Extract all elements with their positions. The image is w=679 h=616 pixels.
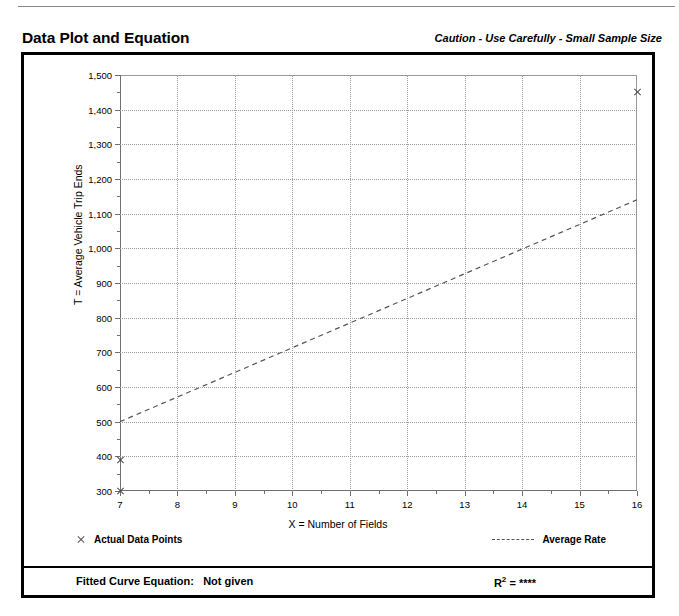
r-squared-equals: =: [509, 577, 515, 589]
x-axis-minor-tick: [149, 491, 150, 494]
x-axis-tick: [235, 491, 236, 496]
x-axis-tick-label: 10: [287, 499, 298, 510]
chart-legend: Actual Data Points Average Rate: [24, 532, 652, 562]
y-axis-tick-label: 600: [96, 382, 112, 393]
data-point-marker: [633, 88, 642, 97]
y-axis-tick-label: 500: [96, 416, 112, 427]
equation-value: Not given: [203, 575, 253, 587]
y-axis-tick-label: 700: [96, 347, 112, 358]
trend-line: [120, 200, 637, 422]
dashed-line-icon: [492, 539, 534, 540]
y-axis-title: T = Average Vehicle Trip Ends: [72, 164, 84, 305]
x-axis-minor-tick: [551, 491, 552, 494]
data-point-marker: [116, 487, 125, 496]
x-axis-tick: [637, 491, 638, 496]
x-axis-tick-label: 11: [345, 499, 355, 510]
x-axis-minor-tick: [264, 491, 265, 494]
x-axis-minor-tick: [493, 491, 494, 494]
x-axis-tick: [407, 491, 408, 496]
x-axis-minor-tick: [436, 491, 437, 494]
x-axis-minor-tick: [206, 491, 207, 494]
caution-note: Caution - Use Carefully - Small Sample S…: [435, 32, 662, 44]
y-axis-tick-label: 300: [96, 486, 112, 497]
y-axis-tick-label: 1,300: [88, 139, 112, 150]
equation-row: Fitted Curve Equation: Not given R2 = **…: [24, 568, 652, 595]
x-axis-tick: [350, 491, 351, 496]
y-axis-tick-label: 400: [96, 451, 112, 462]
legend-item-data-points: Actual Data Points: [76, 534, 182, 545]
legend-label-average-rate: Average Rate: [542, 534, 606, 545]
header: Data Plot and Equation Caution - Use Car…: [22, 29, 662, 51]
page-title: Data Plot and Equation: [22, 29, 189, 47]
x-axis-tick: [522, 491, 523, 496]
x-axis-tick-label: 9: [232, 499, 237, 510]
x-axis-tick: [292, 491, 293, 496]
x-axis-tick-label: 14: [517, 499, 528, 510]
chart-panel: T = Average Vehicle Trip Ends X = Number…: [21, 52, 655, 598]
data-point-marker: [116, 455, 125, 464]
y-axis-tick-label: 1,100: [88, 208, 112, 219]
x-axis-tick-label: 7: [117, 499, 122, 510]
legend-label-data-points: Actual Data Points: [94, 534, 182, 545]
y-axis-tick-label: 1,000: [88, 243, 112, 254]
x-axis-tick: [465, 491, 466, 496]
y-axis-tick-label: 1,200: [88, 174, 112, 185]
x-axis-minor-tick: [379, 491, 380, 494]
average-rate-line: [120, 75, 637, 491]
x-axis-tick-label: 13: [459, 499, 470, 510]
x-axis-tick-label: 15: [574, 499, 585, 510]
r-squared-exponent: 2: [502, 575, 506, 584]
x-axis-tick: [177, 491, 178, 496]
x-axis-tick: [580, 491, 581, 496]
x-axis-title: X = Number of Fields: [24, 518, 652, 530]
x-axis-tick-label: 16: [632, 499, 643, 510]
chart-area: T = Average Vehicle Trip Ends X = Number…: [24, 55, 652, 535]
fitted-curve-equation: Fitted Curve Equation: Not given: [76, 575, 253, 587]
plot-region: 3004005006007008009001,0001,1001,2001,30…: [120, 75, 637, 491]
r-squared-label: R: [494, 577, 502, 589]
x-marker-icon: [76, 535, 85, 544]
legend-item-average-rate: Average Rate: [492, 534, 606, 545]
x-axis-minor-tick: [321, 491, 322, 494]
y-axis-tick-label: 1,500: [88, 70, 112, 81]
page-top-rule: [18, 6, 675, 7]
r-squared-value: ****: [519, 577, 536, 589]
x-axis-tick-label: 8: [175, 499, 180, 510]
y-axis-tick-label: 1,400: [88, 104, 112, 115]
equation-label: Fitted Curve Equation:: [76, 575, 194, 587]
y-axis-tick-label: 800: [96, 312, 112, 323]
y-axis-tick-label: 900: [96, 278, 112, 289]
x-axis-minor-tick: [608, 491, 609, 494]
r-squared: R2 = ****: [494, 575, 536, 589]
x-axis-tick-label: 12: [402, 499, 413, 510]
